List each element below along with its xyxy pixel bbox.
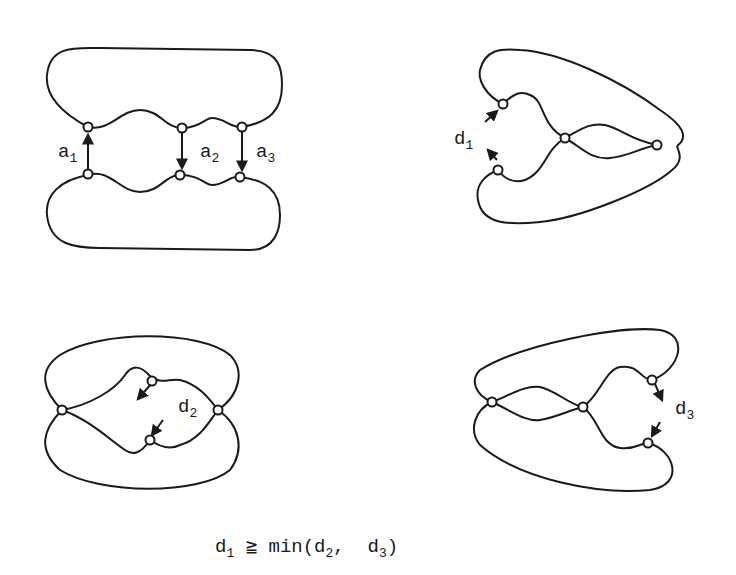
inequality-formula: d1 ≧ min(d2, d3) — [215, 534, 398, 561]
formula-lhs: d — [215, 536, 226, 558]
formula-close: ) — [387, 536, 398, 558]
formula-lhs-sub: 1 — [226, 546, 234, 561]
figure-d1 — [477, 49, 683, 223]
diagram-canvas: a1 a2 a3 d1 d2 d3 — [0, 0, 736, 575]
label-d2: d2 — [178, 396, 197, 421]
formula-arg1: d — [314, 536, 325, 558]
formula-arg2: d — [368, 536, 379, 558]
figure-d2 — [45, 336, 238, 489]
figure-original — [47, 48, 282, 250]
formula-arg2-sub: 3 — [379, 546, 387, 561]
label-d1: d1 — [454, 128, 473, 153]
label-a1: a1 — [58, 141, 77, 166]
label-d3: d3 — [675, 398, 694, 423]
formula-sep: , — [333, 536, 367, 558]
label-a2: a2 — [200, 141, 219, 166]
figure-d3 — [474, 329, 678, 491]
label-a3: a3 — [256, 141, 275, 166]
formula-relation: ≧ — [246, 536, 257, 558]
formula-func: min( — [268, 536, 314, 558]
